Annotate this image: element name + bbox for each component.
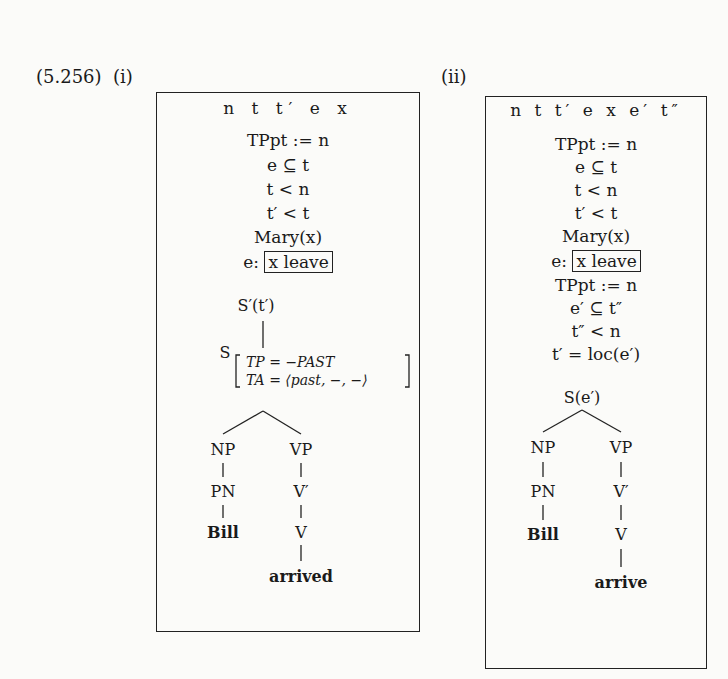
- feature-tp: TP = −PAST: [246, 353, 368, 371]
- tree-node-np: NP: [531, 438, 556, 457]
- tree-leaf-verb: arrived: [269, 567, 333, 586]
- tree-node-np: NP: [211, 440, 236, 459]
- tree-node-vbar: V′: [613, 482, 628, 501]
- tree-node-s: S: [220, 343, 231, 362]
- tree-node-vbar: V′: [293, 482, 308, 501]
- drs-box-ii: n t t′ e x e′ t″ TPpt := n e ⊆ t t < n t…: [485, 96, 707, 669]
- tree-node-pn: PN: [211, 482, 236, 501]
- tree-leaf-name: Bill: [207, 523, 239, 542]
- tree-node-root: S′(t′): [237, 296, 274, 315]
- drs-box-i: n t t′ e x TPpt := n e ⊆ t t < n t′ < t …: [156, 92, 420, 632]
- feature-ta: TA = ⟨past, −, −⟩: [246, 371, 368, 389]
- tree-node-vp: VP: [610, 438, 632, 457]
- subexample-ii-label: (ii): [441, 66, 467, 87]
- tree-node-pn: PN: [531, 482, 556, 501]
- example-number: (5.256): [36, 66, 102, 87]
- tree-leaf-name: Bill: [527, 525, 559, 544]
- tree-node-root: S(e′): [564, 388, 601, 407]
- tree-leaf-verb: arrive: [595, 573, 648, 592]
- tree-node-vp: VP: [290, 440, 312, 459]
- feature-matrix: TP = −PAST TA = ⟨past, −, −⟩: [246, 353, 368, 389]
- tree-node-v: V: [615, 525, 627, 544]
- tree-node-v: V: [295, 523, 307, 542]
- subexample-i-label: (i): [113, 66, 133, 87]
